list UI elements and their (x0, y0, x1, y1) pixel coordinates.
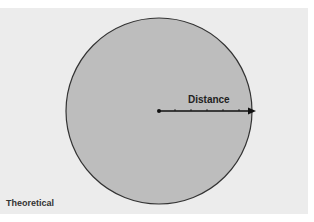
caption-label: Theoretical (6, 198, 54, 208)
distance-label: Distance (188, 94, 230, 105)
center-point (157, 109, 161, 113)
radius-diagram (0, 0, 314, 222)
